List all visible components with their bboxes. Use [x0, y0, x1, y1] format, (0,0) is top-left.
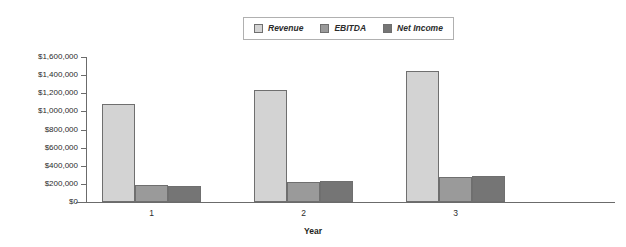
y-axis-tick-label: $1,400,000	[38, 71, 78, 79]
y-axis-labels: $1,600,000$1,400,000$1,200,000$1,000,000…	[0, 0, 78, 247]
legend-label-revenue: Revenue	[268, 24, 303, 33]
bar-revenue-year-1[interactable]	[102, 104, 135, 202]
x-axis-tick-label: 3	[426, 209, 486, 218]
y-axis-tick-mark	[81, 148, 86, 149]
legend-item-net-income: Net Income	[383, 24, 443, 33]
bar-ebitda-year-3[interactable]	[439, 177, 472, 202]
x-axis-tick-label: 2	[274, 209, 334, 218]
y-axis-tick-mark	[81, 57, 86, 58]
y-axis-tick-mark	[81, 93, 86, 94]
bar-net-income-year-2[interactable]	[320, 181, 353, 202]
bar-ebitda-year-2[interactable]	[287, 182, 320, 202]
y-axis-tick-label: $1,600,000	[38, 53, 78, 61]
legend-label-net-income: Net Income	[397, 24, 443, 33]
bar-net-income-year-3[interactable]	[472, 176, 505, 202]
plot-area	[86, 57, 591, 202]
y-axis-tick-mark	[81, 111, 86, 112]
y-axis-tick-mark	[81, 184, 86, 185]
y-axis-tick-label: $800,000	[45, 126, 78, 134]
bar-net-income-year-1[interactable]	[168, 186, 201, 202]
bar-revenue-year-2[interactable]	[254, 90, 287, 202]
bar-group-year-3	[406, 57, 505, 202]
legend-swatch-net-income	[383, 24, 392, 33]
bar-group-year-2	[254, 57, 353, 202]
legend-swatch-revenue	[254, 24, 263, 33]
y-axis-tick-mark	[81, 166, 86, 167]
x-axis-tick-label: 1	[122, 209, 182, 218]
y-axis-tick-label: $400,000	[45, 162, 78, 170]
legend-item-revenue: Revenue	[254, 24, 303, 33]
x-axis-title: Year	[0, 227, 626, 236]
y-axis-tick-mark	[81, 202, 86, 203]
x-axis-line	[76, 202, 615, 203]
chart-legend: Revenue EBITDA Net Income	[243, 17, 454, 40]
legend-label-ebitda: EBITDA	[334, 24, 366, 33]
bar-group-year-1	[102, 57, 201, 202]
bar-chart: Revenue EBITDA Net Income $1,600,000$1,4…	[0, 0, 626, 247]
legend-swatch-ebitda	[320, 24, 329, 33]
bar-revenue-year-3[interactable]	[406, 71, 439, 202]
bar-ebitda-year-1[interactable]	[135, 185, 168, 202]
y-axis-tick-mark	[81, 130, 86, 131]
y-axis-tick-label: $600,000	[45, 144, 78, 152]
legend-item-ebitda: EBITDA	[320, 24, 366, 33]
y-axis-tick-label: $1,200,000	[38, 89, 78, 97]
y-axis-tick-label: $200,000	[45, 180, 78, 188]
y-axis-tick-label: $1,000,000	[38, 107, 78, 115]
y-axis-tick-mark	[81, 75, 86, 76]
